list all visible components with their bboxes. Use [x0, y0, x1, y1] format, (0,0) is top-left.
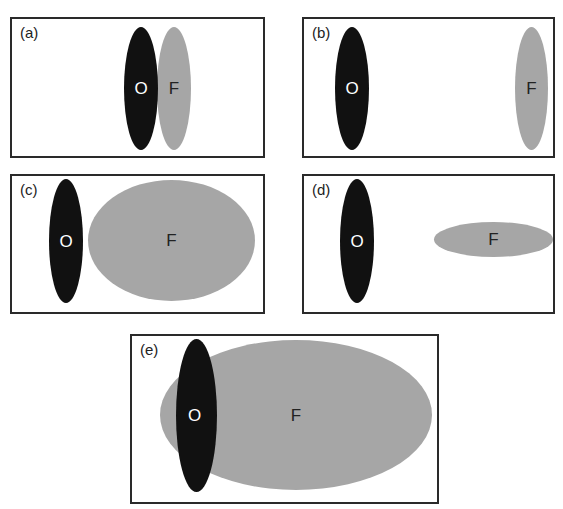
ellipse-f-label: F	[526, 80, 536, 97]
ellipse-o: O	[335, 27, 369, 150]
ellipse-f-label: F	[169, 80, 179, 97]
ellipse-o: O	[176, 339, 217, 492]
ellipse-o: O	[340, 179, 374, 303]
ellipse-f: F	[515, 27, 548, 150]
ellipse-o-label: O	[345, 80, 358, 97]
ellipse-o: O	[49, 179, 83, 303]
ellipse-f: F	[157, 27, 191, 150]
ellipse-f: F	[434, 222, 553, 257]
panel-e-label: (e)	[140, 342, 158, 357]
ellipse-o-label: O	[59, 233, 72, 250]
ellipse-f-label: F	[488, 231, 498, 248]
panel-d: (d) O F	[302, 174, 555, 314]
ellipse-f: F	[88, 180, 255, 301]
ellipse-f-label: F	[291, 407, 301, 424]
panel-c: (c) O F	[10, 174, 265, 314]
panel-a: (a) O F	[10, 17, 265, 158]
panel-a-label: (a)	[20, 25, 38, 40]
panel-b-label: (b)	[312, 25, 330, 40]
ellipse-o: O	[124, 27, 158, 150]
panel-c-label: (c)	[20, 182, 38, 197]
ellipse-o-label: O	[350, 233, 363, 250]
ellipse-o-label: O	[188, 407, 201, 424]
panel-e: (e) O F	[130, 334, 439, 504]
ellipse-f-label: F	[166, 232, 176, 249]
panel-d-label: (d)	[312, 182, 330, 197]
ellipse-o-label: O	[134, 80, 147, 97]
panel-b: (b) O F	[302, 17, 555, 158]
